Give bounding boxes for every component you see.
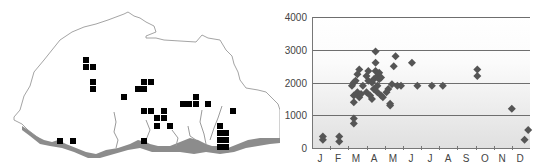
occurrence-cell bbox=[57, 138, 63, 144]
x-tick-apr: A bbox=[371, 153, 378, 164]
y-tick-1000: 1000 bbox=[285, 110, 308, 121]
y-tick-4000: 4000 bbox=[285, 12, 308, 23]
x-tick-oct: O bbox=[481, 153, 489, 164]
occurrence-cell bbox=[186, 101, 192, 107]
y-tick-2000: 2000 bbox=[285, 78, 308, 89]
occurrence-cell bbox=[154, 115, 160, 121]
y-tick-0: 0 bbox=[301, 143, 307, 154]
occurrence-cell bbox=[223, 144, 229, 150]
x-tick-jan: J bbox=[318, 153, 323, 164]
occurrence-cell bbox=[121, 94, 127, 100]
plot-area bbox=[312, 17, 530, 148]
occurrence-cell bbox=[90, 79, 96, 85]
occurrence-cell bbox=[141, 86, 147, 92]
occurrence-cell bbox=[161, 108, 167, 114]
occurrence-cell bbox=[70, 138, 76, 144]
occurrence-cell bbox=[217, 144, 223, 150]
occurrence-cell bbox=[141, 138, 147, 144]
y-tick-3000: 3000 bbox=[285, 45, 308, 56]
elevation-scatter-chart: 4000 3000 2000 1000 0 J F M A M J J A S … bbox=[280, 0, 542, 168]
occurrence-cell bbox=[217, 137, 223, 143]
occurrence-cell bbox=[90, 64, 96, 70]
x-tick-dec: D bbox=[516, 153, 523, 164]
occurrence-cell bbox=[154, 123, 160, 129]
occurrence-cell bbox=[217, 130, 223, 136]
occurrence-cell bbox=[167, 123, 173, 129]
occurrence-cell bbox=[148, 108, 154, 114]
occurrence-cell bbox=[193, 101, 199, 107]
occurrence-cell bbox=[135, 86, 141, 92]
occurrence-cell bbox=[161, 115, 167, 121]
occurrence-cell bbox=[193, 94, 199, 100]
x-tick-labels: J F M A M J J A S O N D bbox=[318, 153, 524, 164]
occurrence-cell bbox=[180, 101, 186, 107]
occurrence-cell bbox=[83, 64, 89, 70]
occurrence-cell bbox=[223, 130, 229, 136]
occurrence-cell bbox=[148, 79, 154, 85]
occurrence-cell bbox=[230, 108, 236, 114]
occurrence-cell bbox=[90, 86, 96, 92]
x-tick-mar: M bbox=[352, 153, 360, 164]
x-tick-aug: A bbox=[445, 153, 452, 164]
occurrence-cell bbox=[205, 101, 211, 107]
x-tick-nov: N bbox=[498, 153, 505, 164]
occurrence-cell bbox=[223, 137, 229, 143]
x-tick-jun: J bbox=[409, 153, 414, 164]
x-tick-may: M bbox=[389, 153, 397, 164]
distribution-map bbox=[0, 0, 280, 168]
occurrence-cell bbox=[141, 108, 147, 114]
chart-svg: 4000 3000 2000 1000 0 J F M A M J J A S … bbox=[280, 0, 542, 168]
occurrence-cell bbox=[217, 123, 223, 129]
occurrence-cell bbox=[141, 79, 147, 85]
x-tick-feb: F bbox=[335, 153, 341, 164]
x-tick-sep: S bbox=[463, 153, 470, 164]
x-tick-jul: J bbox=[428, 153, 433, 164]
y-tick-labels: 4000 3000 2000 1000 0 bbox=[285, 12, 308, 154]
map-svg bbox=[0, 0, 280, 168]
occurrence-cell bbox=[83, 57, 89, 63]
